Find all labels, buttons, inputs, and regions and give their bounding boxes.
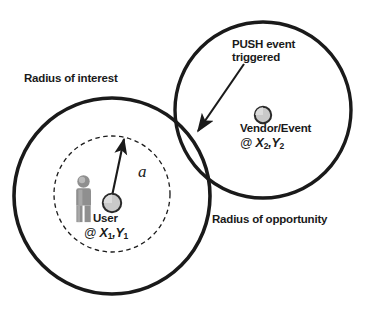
push-event-label-line1: PUSH event: [232, 38, 295, 50]
distance-variable-label: a: [138, 162, 146, 181]
vendor-position-marker: [255, 107, 271, 123]
vendor-coordinates: @ X2,Y2: [240, 136, 311, 150]
vendor-x-variable: X2: [256, 136, 269, 150]
push-event-arrow: [198, 64, 244, 131]
diagram-vector-layer: [0, 0, 368, 311]
vendor-y-variable: Y2: [271, 136, 284, 150]
user-coordinates: @ X1,Y1: [84, 226, 128, 240]
user-position-marker: [103, 194, 121, 212]
user-y-variable: Y1: [115, 226, 128, 240]
diagram-canvas: Radius of interest Radius of opportunity…: [0, 0, 368, 311]
user-name-text: User: [93, 212, 118, 224]
distance-arrow: [112, 139, 124, 196]
user-x-variable: X1: [100, 226, 113, 240]
radius-of-opportunity-label: Radius of opportunity: [212, 213, 327, 226]
user-label: User @ X1,Y1: [93, 212, 128, 240]
user-at-symbol: @: [84, 226, 97, 240]
vendor-label: Vendor/Event @ X2,Y2: [240, 122, 311, 150]
user-person-icon: [76, 175, 91, 222]
radius-of-interest-label: Radius of interest: [24, 72, 118, 85]
push-event-label-line2: triggered: [232, 51, 295, 64]
vendor-name-text: Vendor/Event: [240, 122, 311, 134]
push-event-label: PUSH event triggered: [232, 38, 295, 64]
vendor-at-symbol: @: [240, 136, 253, 150]
